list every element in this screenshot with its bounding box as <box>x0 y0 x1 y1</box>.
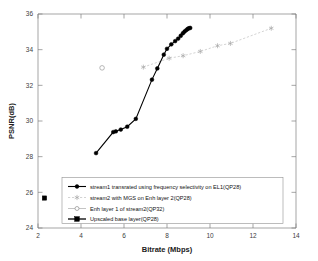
x-tick-labels: 2 4 6 8 10 12 14 <box>36 232 300 239</box>
filled-square-icon <box>75 217 80 222</box>
chart-figure: 2 4 6 8 10 12 14 24 26 <box>0 0 318 261</box>
x-tick-label: 2 <box>36 232 40 239</box>
y-tick-label: 30 <box>26 117 34 124</box>
y-tick-label: 34 <box>26 46 34 53</box>
x-tick-label: 4 <box>79 232 83 239</box>
data-point-marker <box>269 26 273 31</box>
chart-svg: 2 4 6 8 10 12 14 24 26 <box>0 0 318 261</box>
x-tick-label: 12 <box>249 232 257 239</box>
open-circle-icon <box>75 207 79 211</box>
data-point-marker <box>125 125 129 129</box>
data-point-marker <box>42 196 46 200</box>
x-tick-label: 14 <box>292 232 300 239</box>
y-tick-label: 26 <box>26 189 34 196</box>
legend-label: Upscaled base layer(QP28) <box>90 216 159 222</box>
data-point-marker <box>162 53 166 57</box>
y-tick-label: 24 <box>26 224 34 231</box>
series-stream1-transrated <box>94 26 192 155</box>
y-tick-label: 36 <box>26 10 34 17</box>
data-point-marker <box>114 129 118 133</box>
data-point-marker <box>155 66 159 70</box>
series-upscaled-base-layer <box>42 196 46 200</box>
y-tick-label: 28 <box>26 153 34 160</box>
y-axis-title: PSNR(dB) <box>7 103 16 139</box>
data-point-marker <box>100 66 105 71</box>
data-point-marker <box>188 26 192 30</box>
legend-item-stream1[interactable]: stream1 transrated using frequency selec… <box>68 184 241 190</box>
data-point-marker <box>94 151 98 155</box>
legend-label: stream1 transrated using frequency selec… <box>90 184 241 190</box>
data-point-marker <box>165 47 169 51</box>
x-axis-title: Bitrate (Mbps) <box>142 245 193 254</box>
data-point-marker <box>169 42 173 46</box>
x-tick-label: 10 <box>206 232 214 239</box>
chart-legend: stream1 transrated using frequency selec… <box>62 178 283 224</box>
data-point-marker <box>119 128 123 132</box>
data-point-marker <box>134 117 138 121</box>
legend-label: Enh layer 1 of stream2(QP32) <box>90 206 164 212</box>
data-point-marker <box>141 65 145 70</box>
x-tick-label: 6 <box>122 232 126 239</box>
data-point-marker <box>150 78 154 82</box>
data-point-marker <box>181 53 185 58</box>
legend-label: stream2 with MGS on Enh layer 2(QP28) <box>90 195 192 201</box>
series-stream2-mgs <box>141 26 273 70</box>
y-tick-label: 32 <box>26 82 34 89</box>
data-point-marker <box>215 43 219 48</box>
filled-circle-icon <box>75 185 79 189</box>
y-tick-labels: 24 26 28 30 32 34 36 <box>26 10 34 231</box>
series-enh-layer1 <box>100 66 105 71</box>
x-tick-label: 8 <box>165 232 169 239</box>
